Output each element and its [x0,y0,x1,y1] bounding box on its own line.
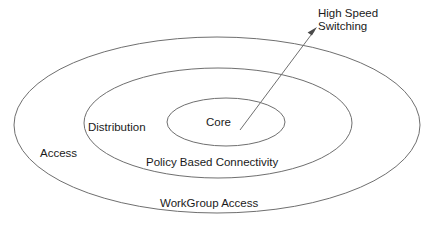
callout-label-line1: High Speed [318,7,378,19]
label-policy-based-connectivity: Policy Based Connectivity [146,156,279,168]
label-distribution: Distribution [88,121,146,133]
callout-arrowhead-icon [308,27,317,36]
callout-label-line2: Switching [318,20,367,32]
label-access: Access [40,147,77,159]
network-hierarchy-diagram: Access Distribution Core Policy Based Co… [0,0,435,228]
label-core: Core [206,116,231,128]
diagram-canvas: Access Distribution Core Policy Based Co… [0,0,435,228]
label-workgroup-access: WorkGroup Access [160,197,258,209]
